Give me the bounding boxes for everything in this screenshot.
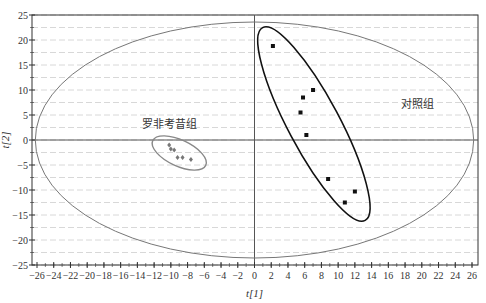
group-label: 对照组 <box>401 97 434 111</box>
x-tick-label: −6 <box>199 270 210 281</box>
x-tick-label: −20 <box>79 270 95 281</box>
y-tick-label: 25 <box>18 10 28 21</box>
pca-score-plot: −26−24−22−20−18−16−14−12−10−8−6−4−202468… <box>0 0 486 303</box>
rofecoxib-point <box>189 157 193 162</box>
y-tick-label: 20 <box>18 35 28 46</box>
rofecoxib-point <box>169 147 173 152</box>
y-axis-label: t[2] <box>0 131 11 148</box>
x-tick-label: 10 <box>333 270 343 281</box>
y-tick-label: 15 <box>18 60 28 71</box>
control-point <box>311 88 315 92</box>
x-tick-label: −8 <box>182 270 193 281</box>
group-labels: 罗非考昔组对照组 <box>142 97 434 131</box>
y-tick-label: −10 <box>12 185 28 196</box>
y-tick-label: −5 <box>17 160 28 171</box>
x-tick-label: 20 <box>417 270 427 281</box>
x-tick-label: −12 <box>146 270 162 281</box>
x-tick-label: 22 <box>434 270 444 281</box>
y-tick-label: −15 <box>12 210 28 221</box>
rofecoxib-point <box>181 155 185 160</box>
group-label: 罗非考昔组 <box>142 117 197 131</box>
control-point <box>304 133 308 137</box>
x-tick-label: 24 <box>450 270 460 281</box>
control-point <box>343 201 347 205</box>
control-point <box>326 177 330 181</box>
x-tick-label: 14 <box>367 270 377 281</box>
x-tick-label: −22 <box>63 270 79 281</box>
x-tick-label: −10 <box>163 270 179 281</box>
x-tick-label: 18 <box>400 270 410 281</box>
x-tick-label: 2 <box>269 270 274 281</box>
x-tick-label: −4 <box>216 270 227 281</box>
y-tick-label: 5 <box>23 110 28 121</box>
rofecoxib-point <box>176 155 180 160</box>
rofecoxib-point <box>167 143 171 148</box>
x-tick-label: −24 <box>46 270 62 281</box>
x-tick-label: −2 <box>232 270 243 281</box>
x-axis-label: t[1] <box>246 287 263 299</box>
y-tick-label: 10 <box>18 85 28 96</box>
x-tick-label: 0 <box>252 270 257 281</box>
x-tick-label: 6 <box>302 270 307 281</box>
y-tick-label: −20 <box>12 235 28 246</box>
control-point <box>299 111 303 115</box>
control-point <box>271 44 275 48</box>
x-tick-label: 8 <box>319 270 324 281</box>
x-tick-label: −16 <box>113 270 129 281</box>
control-point <box>301 96 305 100</box>
x-tick-label: 12 <box>350 270 360 281</box>
x-tick-label: −14 <box>130 270 146 281</box>
x-tick-label: −26 <box>29 270 45 281</box>
y-tick-label: −25 <box>12 260 28 271</box>
x-tick-label: 26 <box>467 270 477 281</box>
x-tick-label: 4 <box>285 270 290 281</box>
group-ellipse-0 <box>240 15 388 232</box>
y-tick-label: 0 <box>23 135 28 146</box>
control-point <box>353 190 357 194</box>
x-tick-label: −18 <box>96 270 112 281</box>
x-tick-label: 16 <box>383 270 393 281</box>
rofecoxib-point <box>172 148 176 153</box>
